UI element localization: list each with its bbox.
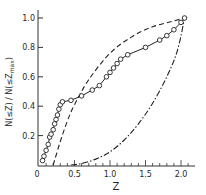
data-point xyxy=(46,142,51,147)
data-point xyxy=(52,122,57,127)
data-point xyxy=(79,94,84,99)
data-point xyxy=(157,38,162,43)
y-ticks: 0.20.40.60.81.0 xyxy=(22,14,43,141)
curves xyxy=(43,18,185,165)
data-point xyxy=(97,83,102,88)
x-tick-label: 1.0 xyxy=(104,170,117,179)
data-point xyxy=(118,57,123,62)
y-axis-label: N(≤Z) / N(≤Zmax) xyxy=(5,57,15,127)
data-point xyxy=(111,66,116,71)
data-point xyxy=(51,127,56,132)
x-tick-label: 0 xyxy=(34,170,39,179)
data-point xyxy=(143,45,148,50)
data-point xyxy=(125,52,130,57)
data-point xyxy=(172,27,177,32)
observed-line xyxy=(43,18,185,161)
y-tick-label: 1.0 xyxy=(22,14,35,23)
data-point xyxy=(165,33,170,38)
data-point xyxy=(60,99,65,104)
data-point xyxy=(44,148,49,153)
x-ticks: 00.51.01.52.0 xyxy=(34,160,188,179)
cumulative-distribution-chart: 0.20.40.60.81.0 00.51.01.52.0 Z N(≤Z) / … xyxy=(0,0,206,195)
model-dashed-curve xyxy=(53,18,184,165)
data-point xyxy=(49,132,54,137)
data-point xyxy=(57,107,62,112)
data-point xyxy=(108,70,113,75)
x-axis-label: Z xyxy=(113,181,120,192)
x-tick-label: 0.5 xyxy=(68,170,81,179)
data-point xyxy=(54,117,59,122)
data-point xyxy=(55,113,60,118)
x-tick-label: 1.5 xyxy=(139,170,152,179)
data-point xyxy=(90,88,95,93)
data-point xyxy=(182,16,187,21)
model-dash-dot-curve xyxy=(71,18,185,165)
data-point xyxy=(42,154,47,159)
data-point xyxy=(40,158,45,163)
data-point xyxy=(115,61,120,66)
data-point xyxy=(69,98,74,103)
y-tick-label: 0.8 xyxy=(22,43,35,52)
data-points xyxy=(40,16,187,163)
x-tick-label: 2.0 xyxy=(175,170,188,179)
data-point xyxy=(179,20,184,25)
y-tick-label: 0.2 xyxy=(22,132,35,141)
y-tick-label: 0.6 xyxy=(22,73,35,82)
data-point xyxy=(104,75,109,80)
y-tick-label: 0.4 xyxy=(22,102,35,111)
